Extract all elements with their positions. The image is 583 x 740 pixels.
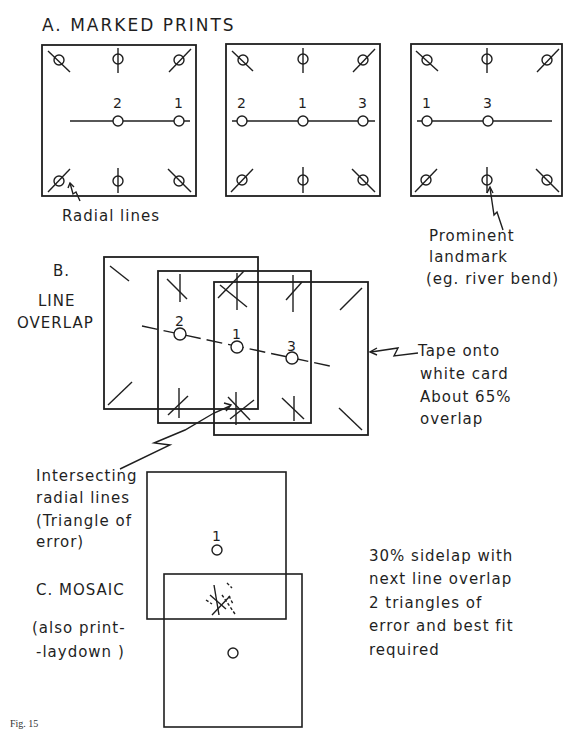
print-a2: [226, 44, 380, 196]
intersect-note-4: error): [36, 531, 84, 553]
section-a-title: A. MARKED PRINTS: [42, 14, 236, 36]
mosaic-note-4: error and best fit: [369, 615, 514, 637]
overlap-point-1: 1: [232, 326, 241, 342]
intersect-note-3: (Triangle of: [36, 510, 132, 532]
tape-note-4: overlap: [420, 408, 483, 430]
section-c-subtitle-1: (also print-: [32, 617, 126, 639]
section-b-title-line2: LINE: [38, 290, 75, 312]
mosaic-note-5: required: [369, 639, 440, 661]
section-c-title: C. MOSAIC: [36, 579, 125, 601]
landmark-label-3: (eg. river bend): [426, 268, 559, 290]
print-a1-label-2: 2: [113, 95, 122, 111]
tape-note-2: white card: [420, 363, 509, 385]
landmark-label-2: landmark: [429, 246, 508, 268]
radial-lines-label: Radial lines: [62, 205, 160, 227]
print-a1: [42, 45, 196, 201]
print-a2-label-1: 1: [298, 95, 307, 111]
print-a2-label-3: 3: [358, 95, 367, 111]
section-b-title: B.: [53, 260, 70, 282]
mosaic-note-1: 30% sidelap with: [369, 545, 513, 567]
mosaic-point-1: 1: [212, 528, 221, 544]
tape-note-3: About 65%: [420, 386, 511, 408]
mosaic-note-2: next line overlap: [369, 568, 512, 590]
intersect-note-1: Intersecting: [36, 465, 138, 487]
line-overlap-prints: [104, 257, 418, 469]
section-b-title-line3: OVERLAP: [17, 312, 94, 334]
print-a2-label-2: 2: [237, 95, 246, 111]
intersect-note-2: radial lines: [36, 487, 130, 509]
tape-note-1: Tape onto: [418, 340, 500, 362]
mosaic-prints: [147, 472, 302, 727]
mosaic-note-3: 2 triangles of: [369, 592, 482, 614]
print-a3: [411, 44, 562, 230]
print-a3-label-1: 1: [422, 95, 431, 111]
figure-caption: Fig. 15: [10, 718, 38, 729]
print-a3-label-3: 3: [483, 95, 492, 111]
section-c-subtitle-2: -laydown ): [36, 641, 125, 663]
overlap-point-3: 3: [287, 338, 296, 354]
overlap-point-2: 2: [175, 313, 184, 329]
print-a1-label-1: 1: [174, 95, 183, 111]
landmark-label-1: Prominent: [429, 225, 515, 247]
